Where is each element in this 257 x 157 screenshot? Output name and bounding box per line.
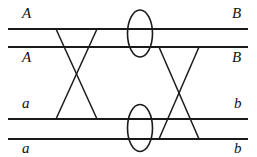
label-left-a-2: a xyxy=(22,141,30,156)
label-right-b-1: b xyxy=(234,96,242,111)
diagram-canvas xyxy=(0,0,257,157)
label-left-A-1: A xyxy=(22,6,31,21)
label-left-A-2: A xyxy=(22,50,31,65)
upper-loop-ellipse xyxy=(128,10,153,57)
label-right-B-1: B xyxy=(232,6,241,21)
lower-loop-ellipse xyxy=(128,105,153,152)
label-right-B-2: B xyxy=(232,50,241,65)
label-right-b-2: b xyxy=(234,141,242,156)
wiring-diagram: A A a a B B b b xyxy=(0,0,257,157)
label-left-a-1: a xyxy=(22,96,30,111)
